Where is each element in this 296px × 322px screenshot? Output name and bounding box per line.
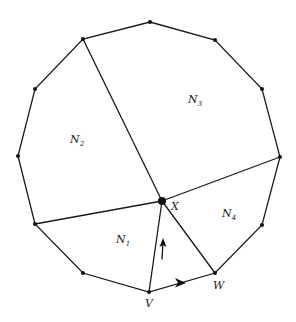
edge-x-topleft — [83, 39, 162, 201]
region-label-n4: N4 — [221, 207, 236, 222]
arrow-up-icon — [160, 238, 167, 259]
region-label-n3: N3 — [187, 93, 203, 108]
vertex — [260, 223, 264, 227]
vertex — [81, 271, 85, 275]
vertex — [81, 37, 85, 41]
region-label-n2: N2 — [69, 133, 85, 148]
vertex — [16, 154, 20, 158]
vertex — [148, 20, 152, 24]
polygon-diagram: N1 N2 N3 N4 X V W — [0, 0, 296, 322]
region-label-n1: N1 — [115, 233, 130, 248]
point-label-v: V — [145, 297, 154, 310]
outer-polygon — [18, 22, 280, 292]
vertex — [33, 87, 37, 91]
vertex — [33, 222, 37, 226]
vertex — [260, 87, 264, 91]
point-label-w: W — [213, 279, 226, 292]
vertex-v — [147, 290, 151, 294]
edge-x-left — [35, 201, 162, 224]
edge-x-w — [162, 201, 215, 273]
vertices — [16, 20, 282, 294]
arrow-right-icon — [175, 278, 186, 288]
edge-x-right — [162, 157, 280, 201]
vertex-w — [213, 271, 217, 275]
point-label-x: X — [170, 200, 180, 213]
vertex — [278, 155, 282, 159]
vertex — [213, 38, 217, 42]
vertex-x — [158, 197, 166, 205]
